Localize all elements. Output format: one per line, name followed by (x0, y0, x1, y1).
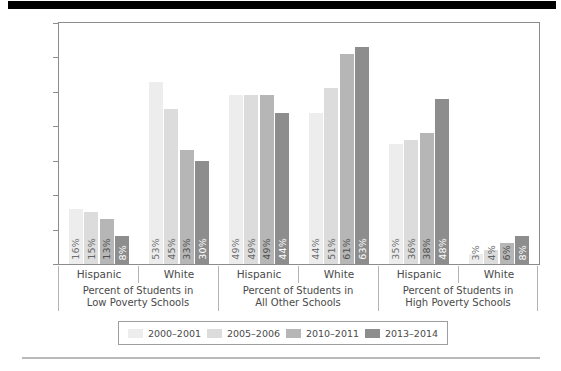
bar-value-label: 6% (502, 245, 512, 260)
bar-value-label: 35% (391, 238, 401, 260)
group-caption: Percent of Students inLow Poverty School… (58, 285, 218, 309)
bar-value-label: 3% (471, 245, 481, 260)
bar-value-label: 45% (167, 238, 177, 260)
category-separator (298, 266, 299, 283)
bar: 44% (309, 113, 323, 264)
legend-swatch (207, 329, 222, 338)
bar-value-label: 4% (487, 245, 497, 260)
bar-value-label: 16% (71, 238, 81, 260)
bar: 6% (500, 243, 514, 264)
group-caption-line1: Percent of Students in (58, 285, 218, 297)
legend-swatch (286, 329, 301, 338)
group-caption-line1: Percent of Students in (378, 285, 538, 297)
legend-label: 2013–2014 (385, 328, 438, 339)
bar: 49% (229, 95, 243, 264)
category-label-hispanic-0: Hispanic (54, 268, 144, 280)
bar-value-label: 61% (342, 238, 352, 260)
legend-item-0: 2000–2001 (128, 328, 201, 339)
bar: 36% (404, 140, 418, 264)
bar-value-label: 33% (182, 238, 192, 260)
group-caption: Percent of Students inHigh Poverty Schoo… (378, 285, 538, 309)
bar: 63% (355, 47, 369, 264)
top-rule (8, 1, 556, 9)
category-axis: HispanicWhiteHispanicWhiteHispanicWhiteP… (58, 266, 540, 312)
category-label-white-3: White (294, 268, 384, 280)
group-caption-line1: Percent of Students in (218, 285, 378, 297)
legend-swatch (365, 329, 380, 338)
group-caption: Percent of Students inAll Other Schools (218, 285, 378, 309)
bar: 45% (164, 109, 178, 264)
group-caption-line2: Low Poverty Schools (58, 297, 218, 309)
group-caption-line2: High Poverty Schools (378, 297, 538, 309)
category-label-hispanic-2: Hispanic (214, 268, 304, 280)
category-label-white-1: White (134, 268, 224, 280)
bar-value-label: 48% (438, 238, 448, 260)
category-separator (138, 266, 139, 283)
bottom-rule (22, 357, 540, 359)
bar: 13% (100, 219, 114, 264)
legend-item-3: 2013–2014 (365, 328, 438, 339)
bar: 15% (84, 212, 98, 264)
legend-label: 2000–2001 (148, 328, 201, 339)
bar: 53% (149, 82, 163, 264)
bar-value-label: 49% (262, 238, 272, 260)
bar: 38% (420, 133, 434, 264)
legend-swatch (128, 329, 143, 338)
bar-value-label: 51% (327, 238, 337, 260)
bar: 61% (340, 54, 354, 264)
bar-value-label: 44% (278, 238, 288, 260)
plot-area: 16%15%13%8%53%45%33%30%49%49%49%44%44%51… (59, 23, 539, 264)
bar: 3% (469, 254, 483, 264)
bar: 8% (115, 236, 129, 264)
bar-value-label: 63% (358, 238, 368, 260)
category-separator (458, 266, 459, 283)
bar-value-label: 38% (422, 238, 432, 260)
bar-value-label: 49% (231, 238, 241, 260)
bar-value-label: 49% (247, 238, 257, 260)
legend-item-2: 2010–2011 (286, 328, 359, 339)
chart-legend: 2000–20012005–20062010–20112013–2014 (118, 321, 448, 345)
bar: 49% (244, 95, 258, 264)
bar: 4% (484, 250, 498, 264)
bar: 48% (435, 99, 449, 264)
bar: 33% (180, 150, 194, 264)
bar-value-label: 53% (151, 238, 161, 260)
bar-value-label: 44% (311, 238, 321, 260)
bar: 49% (260, 95, 274, 264)
bar: 8% (515, 236, 529, 264)
bar: 16% (69, 209, 83, 264)
y-axis: 010203040506070 (0, 0, 58, 265)
bar: 44% (275, 113, 289, 264)
legend-item-1: 2005–2006 (207, 328, 280, 339)
bar: 35% (389, 144, 403, 265)
bar-value-label: 8% (518, 245, 528, 260)
category-label-white-5: White (454, 268, 544, 280)
legend-label: 2005–2006 (227, 328, 280, 339)
bar-value-label: 36% (407, 238, 417, 260)
bar-value-label: 30% (198, 238, 208, 260)
bar: 30% (195, 161, 209, 264)
bar-value-label: 13% (102, 238, 112, 260)
bar-value-label: 8% (118, 245, 128, 260)
group-caption-line2: All Other Schools (218, 297, 378, 309)
category-label-hispanic-4: Hispanic (374, 268, 464, 280)
bar-value-label: 15% (87, 238, 97, 260)
bar: 51% (324, 88, 338, 264)
legend-label: 2010–2011 (306, 328, 359, 339)
